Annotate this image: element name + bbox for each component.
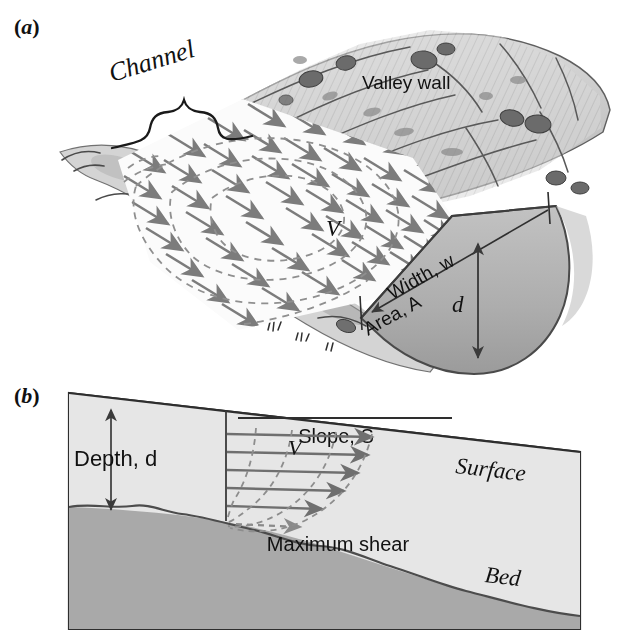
panel-label-b: (b) [14,383,40,409]
panel-label-b-letter: b [21,383,32,408]
depth-symbol-label-a: d [452,292,464,317]
valley-wall-label: Valley wall [362,72,450,93]
channel-label: Channel [105,34,198,87]
panel-a-illustration: V Channel Valley wall Width, w Area, A d [0,0,623,643]
